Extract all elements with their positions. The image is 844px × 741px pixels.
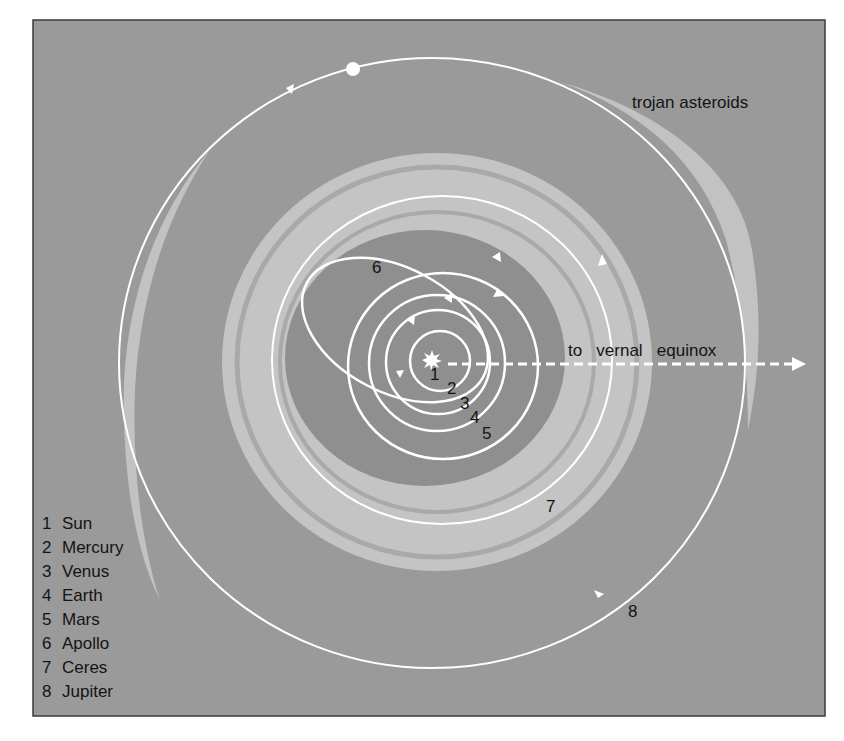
vernal-equinox-label: to vernal equinox [568,341,717,360]
label-mars: 5 [482,424,491,443]
legend-item: 1Sun [42,514,92,533]
label-venus: 3 [460,394,469,413]
label-apollo: 6 [372,258,381,277]
label-sun: 1 [430,365,439,384]
label-earth: 4 [470,408,479,427]
label-ceres: 7 [546,497,555,516]
trojan-asteroids-label: trojan asteroids [632,93,748,112]
legend-item: 4Earth [42,586,103,605]
jupiter-planet-dot [346,62,360,76]
label-mercury: 2 [447,379,456,398]
legend-item: 5Mars [42,610,100,629]
solar-system-orbit-diagram: 1 2 3 4 5 6 7 8 to vernal equinox trojan… [0,0,844,741]
label-jupiter: 8 [628,602,637,621]
